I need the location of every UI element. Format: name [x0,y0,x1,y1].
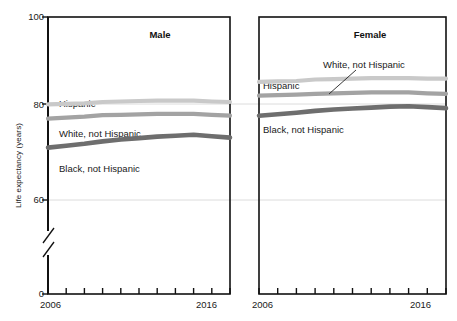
panel-female-frame [259,17,446,294]
series-female-black-not-hispanic [259,106,446,116]
series-male-black-not-hispanic [48,135,230,148]
figure-root: Life expectancy (years) 100 80 60 0 Male… [0,0,457,321]
series-female-hispanic [259,78,446,82]
series-female-white-not-hispanic [259,92,446,95]
panel-male-frame [48,17,230,294]
series-male-white-not-hispanic [48,114,230,119]
x-ticks-male [48,288,230,294]
x-ticks-female [259,288,446,294]
leader-line-female-white-not-hispanic [329,70,356,94]
plot-canvas [0,0,457,321]
y-axis-break-icon [43,228,54,257]
